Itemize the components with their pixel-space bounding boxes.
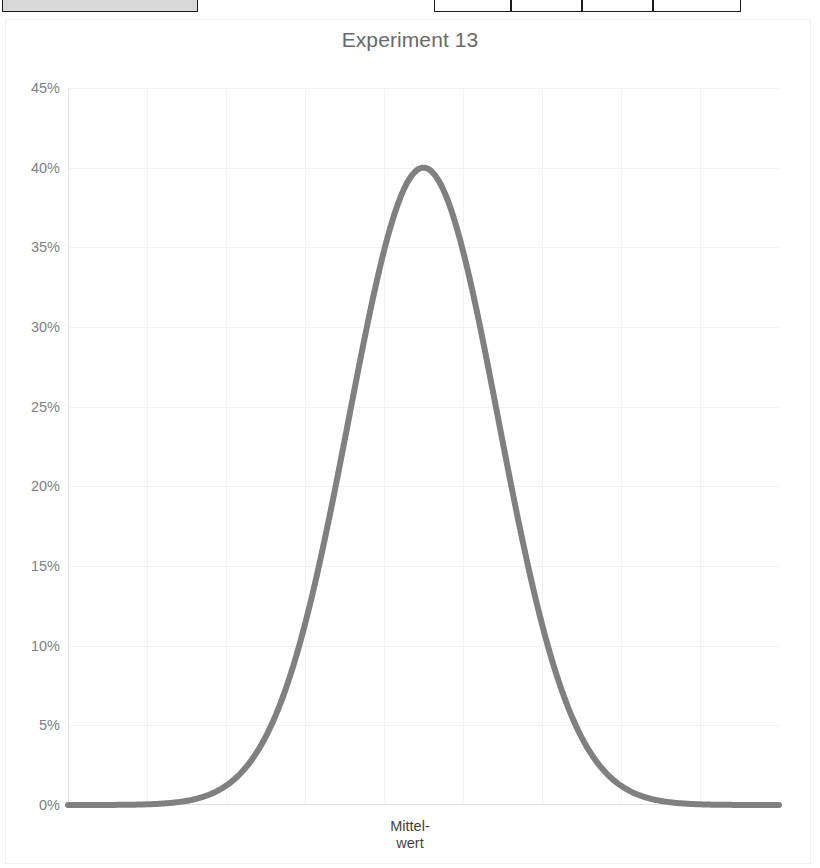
y-tick-label: 35% — [8, 239, 60, 255]
y-tick-label: 25% — [8, 399, 60, 415]
y-tick-label: 0% — [8, 797, 60, 813]
x-axis-label: Mittel- wert — [0, 818, 820, 852]
y-axis-tick-labels: 45%40%35%30%25%20%15%10%5%0% — [0, 88, 60, 805]
chart-title: Experiment 13 — [0, 28, 820, 52]
x-axis-label-line2: wert — [0, 835, 820, 852]
table-cell-1[interactable] — [434, 0, 511, 12]
table-cell-2[interactable] — [511, 0, 582, 12]
gaussian-curve-series — [68, 88, 779, 805]
y-tick-label: 45% — [8, 80, 60, 96]
y-tick-label: 5% — [8, 717, 60, 733]
y-tick-label: 40% — [8, 160, 60, 176]
y-tick-label: 20% — [8, 478, 60, 494]
plot-area — [68, 88, 779, 805]
y-tick-label: 15% — [8, 558, 60, 574]
table-cell-4[interactable] — [653, 0, 741, 12]
y-tick-label: 10% — [8, 638, 60, 654]
table-cell-3[interactable] — [582, 0, 653, 12]
y-tick-label: 30% — [8, 319, 60, 335]
header-cell-left[interactable] — [2, 0, 198, 12]
gaussian-curve-path — [68, 168, 779, 805]
top-table-fragments — [0, 0, 820, 14]
x-axis-label-line1: Mittel- — [390, 818, 429, 834]
